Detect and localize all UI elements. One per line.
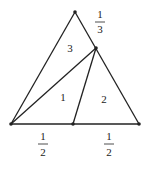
midpoint-m bbox=[71, 122, 75, 126]
vertex-b bbox=[137, 122, 141, 126]
segment-mp bbox=[73, 48, 96, 124]
region-label-3: 3 bbox=[67, 42, 73, 54]
triangle-diagram: 3 1 2 1 3 1 2 1 2 bbox=[0, 0, 149, 173]
fraction-numerator: 1 bbox=[40, 130, 46, 142]
fraction-one-half-right: 1 2 bbox=[104, 130, 114, 158]
fraction-denominator: 3 bbox=[97, 23, 103, 35]
region-label-1: 1 bbox=[60, 91, 66, 103]
point-p bbox=[94, 46, 98, 50]
fraction-one-third: 1 3 bbox=[95, 8, 105, 35]
vertex-a bbox=[9, 122, 13, 126]
fraction-numerator: 1 bbox=[106, 130, 112, 142]
fraction-denominator: 2 bbox=[40, 146, 46, 158]
edge-ac bbox=[11, 12, 75, 124]
fraction-one-half-left: 1 2 bbox=[38, 130, 48, 158]
fraction-numerator: 1 bbox=[97, 8, 103, 20]
fraction-denominator: 2 bbox=[106, 146, 112, 158]
vertex-c bbox=[73, 10, 77, 14]
region-label-2: 2 bbox=[101, 93, 107, 105]
segment-ap bbox=[11, 48, 96, 124]
edge-cb bbox=[75, 12, 139, 124]
